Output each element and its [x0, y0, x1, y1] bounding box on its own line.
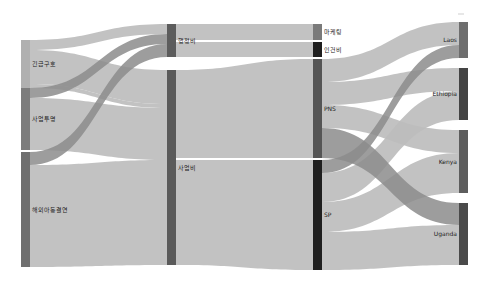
- link-admin-labor: [176, 42, 313, 57]
- node-label-admin: 행정비: [178, 37, 196, 45]
- node-kenya: [459, 130, 468, 193]
- node-label-project: 사업비: [178, 164, 196, 172]
- node-ethiopia: [459, 68, 468, 120]
- node-emergency: [21, 40, 30, 88]
- link-admin-marketing: [176, 24, 313, 40]
- node-label-biz: 사업투명: [32, 115, 56, 123]
- node-marketing: [313, 24, 322, 40]
- node-label-kenya: Kenya: [439, 158, 458, 166]
- node-label-marketing: 마케팅: [324, 28, 342, 36]
- node-label-laos: Laos: [443, 36, 457, 43]
- sankey-chart: 긴급구호사업투명해외아동결연행정비사업비마케팅인건비PNSSPLaosEthio…: [0, 0, 488, 285]
- link-project-sp: [176, 160, 313, 270]
- node-label-pns: PNS: [324, 105, 336, 112]
- node-project: [167, 70, 176, 265]
- node-sponsor: [21, 152, 30, 267]
- node-labor: [313, 42, 322, 57]
- node-biz: [21, 88, 30, 150]
- node-admin: [167, 24, 176, 57]
- node-label-uganda: Uganda: [434, 230, 457, 238]
- link-sponsor-project: [30, 160, 167, 267]
- node-sp: [313, 160, 322, 270]
- node-label-sponsor: 해외아동결연: [32, 206, 68, 214]
- sankey-links: [30, 22, 459, 270]
- link-project-pns: [176, 59, 313, 158]
- node-label-sp: SP: [324, 211, 332, 218]
- node-uganda: [459, 203, 468, 265]
- node-pns: [313, 59, 322, 158]
- node-label-emergency: 긴급구호: [32, 60, 56, 68]
- node-laos: [459, 22, 468, 58]
- node-label-labor: 인건비: [324, 46, 342, 54]
- node-label-ethiopia: Ethiopia: [433, 90, 458, 98]
